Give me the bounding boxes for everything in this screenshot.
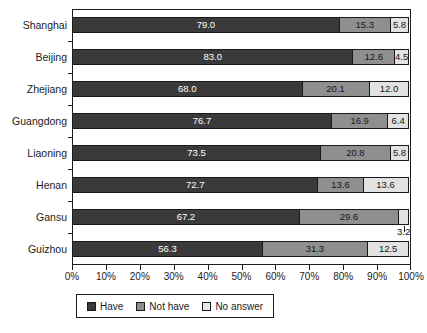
stacked-bar: 76.716.96.4 [72, 113, 411, 129]
bar-segment-not-have: 20.8 [320, 145, 391, 161]
bar-segment-have: 73.5 [72, 145, 321, 161]
bar-segment-no-answer: 12.0 [369, 81, 410, 97]
y-axis-tick [68, 41, 72, 42]
x-axis-tick-label: 10% [96, 271, 116, 282]
bar-segment-not-have: 20.1 [302, 81, 370, 97]
legend-swatch-icon [87, 302, 96, 311]
bar-segment-not-have: 15.3 [339, 17, 391, 33]
y-axis-tick [68, 73, 72, 74]
bar-segment-no-answer: 6.4 [387, 113, 409, 129]
legend-label: No answer [215, 301, 263, 312]
segment-value-label: 72.7 [186, 180, 205, 190]
x-axis-tick [106, 265, 107, 270]
segment-value-label: 3.2 [397, 227, 410, 237]
y-axis-tick [68, 169, 72, 170]
bar-row: Guangdong76.716.96.4 [72, 113, 411, 129]
segment-value-label: 5.8 [393, 20, 406, 30]
segment-value-label: 76.7 [193, 116, 212, 126]
legend-item-not-have: Not have [136, 301, 189, 312]
category-label: Gansu [36, 211, 67, 223]
segment-value-label: 68.0 [178, 84, 197, 94]
x-axis-tick [174, 265, 175, 270]
category-label: Guizhou [28, 243, 67, 255]
category-label: Henan [36, 179, 67, 191]
segment-value-label: 6.4 [392, 116, 405, 126]
segment-value-label: 20.8 [346, 148, 365, 158]
bar-row: Shanghai79.015.35.8 [72, 17, 411, 33]
stacked-bar: 67.229.63.2 [72, 209, 411, 225]
x-axis-tick [72, 265, 73, 270]
bar-segment-have: 56.3 [72, 241, 263, 257]
y-axis-tick [68, 233, 72, 234]
category-label: Liaoning [27, 147, 67, 159]
segment-value-label: 31.3 [306, 244, 325, 254]
x-axis-labels: 0%10%20%30%40%50%60%70%80%90%100% [72, 271, 411, 285]
category-label: Beijing [35, 51, 67, 63]
bar-segment-not-have: 12.6 [352, 49, 395, 65]
bar-segment-have: 72.7 [72, 177, 318, 193]
y-axis-tick [68, 137, 72, 138]
x-axis-tick-label: 20% [130, 271, 150, 282]
legend-item-no-answer: No answer [202, 301, 263, 312]
bar-segment-no-answer: 12.5 [367, 241, 409, 257]
segment-value-label: 5.8 [393, 148, 406, 158]
bar-segment-no-answer: 13.6 [363, 177, 409, 193]
segment-value-label: 12.5 [379, 244, 398, 254]
segment-value-label: 16.9 [350, 116, 369, 126]
x-axis-tick [377, 265, 378, 270]
bar-row: Guizhou56.331.312.5 [72, 241, 411, 257]
x-axis-tick-label: 40% [198, 271, 218, 282]
bar-segment-have: 76.7 [72, 113, 332, 129]
bar-segment-not-have: 29.6 [299, 209, 399, 225]
bar-segment-not-have: 16.9 [331, 113, 388, 129]
bar-segment-no-answer: 5.8 [390, 145, 410, 161]
bar-segment-not-have: 31.3 [262, 241, 368, 257]
segment-value-label: 15.3 [355, 20, 374, 30]
y-axis-tick [68, 201, 72, 202]
legend-label: Have [100, 301, 123, 312]
x-axis-tick-label: 80% [333, 271, 353, 282]
stacked-bar: 72.713.613.6 [72, 177, 411, 193]
segment-value-label: 12.6 [364, 52, 383, 62]
stacked-bar: 83.012.64.5 [72, 49, 411, 65]
segment-value-label: 20.1 [326, 84, 345, 94]
bar-segment-have: 79.0 [72, 17, 340, 33]
stacked-bar: 56.331.312.5 [72, 241, 411, 257]
category-label: Shanghai [23, 19, 67, 31]
segment-value-label: 13.6 [331, 180, 350, 190]
x-axis-tick [242, 265, 243, 270]
x-axis-tick [343, 265, 344, 270]
segment-value-label: 73.5 [187, 148, 206, 158]
bar-segment-no-answer: 3.2 [398, 209, 409, 225]
stacked-bar: 73.520.85.8 [72, 145, 411, 161]
stacked-bar-chart: Shanghai79.015.35.8Beijing83.012.64.5Zhe… [0, 0, 427, 333]
segment-value-label: 79.0 [197, 20, 216, 30]
bar-row: Beijing83.012.64.5 [72, 49, 411, 65]
bar-segment-have: 83.0 [72, 49, 353, 65]
segment-value-label: 67.2 [177, 212, 196, 222]
x-axis-tick-label: 100% [398, 271, 424, 282]
bar-rows: Shanghai79.015.35.8Beijing83.012.64.5Zhe… [72, 9, 411, 265]
bar-row: Zhejiang68.020.112.0 [72, 81, 411, 97]
bar-segment-not-have: 13.6 [317, 177, 363, 193]
stacked-bar: 79.015.35.8 [72, 17, 411, 33]
category-label: Zhejiang [27, 83, 67, 95]
legend-label: Not have [149, 301, 189, 312]
bar-segment-have: 68.0 [72, 81, 303, 97]
bar-segment-no-answer: 4.5 [394, 49, 409, 65]
bar-row: Liaoning73.520.85.8 [72, 145, 411, 161]
x-axis-tick-label: 70% [299, 271, 319, 282]
y-axis-tick [68, 105, 72, 106]
x-axis-tick-label: 50% [231, 271, 251, 282]
x-axis-tick-label: 90% [367, 271, 387, 282]
x-axis-tick [309, 265, 310, 270]
x-axis-tick [275, 265, 276, 270]
stacked-bar: 68.020.112.0 [72, 81, 411, 97]
segment-value-label: 56.3 [158, 244, 177, 254]
legend-swatch-icon [136, 302, 145, 311]
x-axis-tick [208, 265, 209, 270]
x-axis-tick-label: 0% [65, 271, 79, 282]
segment-value-label: 13.6 [376, 180, 395, 190]
segment-value-label: 29.6 [340, 212, 359, 222]
bar-row: Henan72.713.613.6 [72, 177, 411, 193]
